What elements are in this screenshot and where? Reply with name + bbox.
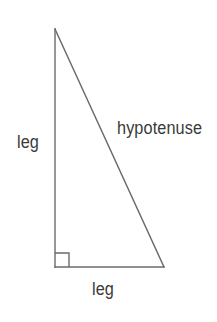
triangle-figure	[0, 0, 217, 322]
vertical-leg-label: leg	[17, 134, 39, 152]
right-triangle-diagram: hypotenuse leg leg	[0, 0, 217, 322]
hypotenuse-label: hypotenuse	[117, 120, 202, 138]
hypotenuse-line	[55, 29, 164, 267]
right-angle-marker-icon	[55, 253, 69, 267]
horizontal-leg-label: leg	[92, 281, 114, 299]
